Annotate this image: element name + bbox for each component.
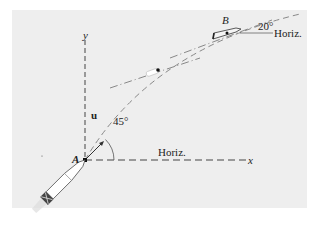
tangent-line-b — [170, 20, 272, 58]
projectile-mid — [146, 68, 160, 77]
point-a-label: A — [72, 154, 79, 165]
y-axis-label: y — [83, 30, 88, 41]
horiz-a-label: Horiz. — [158, 147, 186, 158]
horiz-b-label: Horiz. — [274, 28, 302, 39]
unit-vector-u — [85, 142, 103, 160]
angle-arc-45 — [106, 140, 115, 161]
x-axis-label: x — [248, 155, 253, 166]
trajectory-curve — [85, 14, 300, 160]
unit-vector-label: u — [91, 110, 97, 121]
point-b-label: B — [222, 15, 229, 26]
speck — [41, 155, 42, 156]
angle-a-label: 45° — [113, 116, 128, 127]
trajectory-diagram — [0, 0, 320, 234]
rocket — [30, 156, 89, 215]
angle-b-label: 20° — [258, 21, 273, 32]
